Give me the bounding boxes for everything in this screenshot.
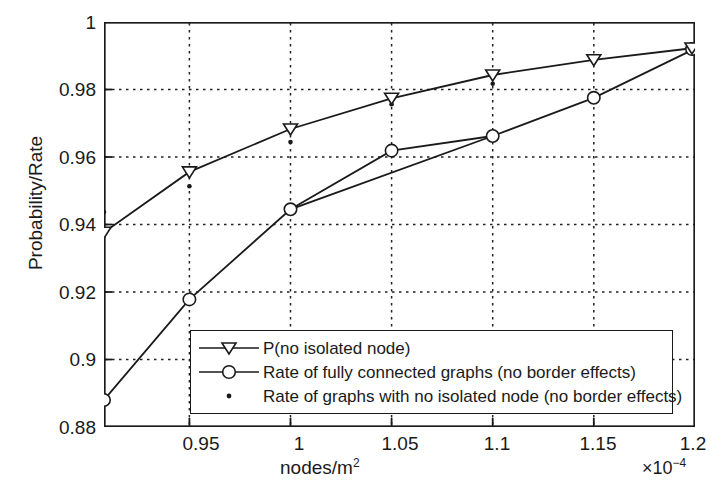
x-axis-exponent-superscript: −4: [673, 456, 687, 470]
chart-legend: P(no isolated node) Rate of fully connec…: [190, 330, 673, 414]
x-tick-label: 1.15: [553, 434, 643, 453]
x-tick-label: 0.95: [156, 434, 246, 453]
y-tick-label: 0.98: [16, 80, 96, 99]
x-axis-label-text: nodes/m: [280, 457, 353, 478]
x-axis-label-superscript: 2: [353, 456, 360, 470]
y-tick-label: 0.88: [16, 418, 96, 437]
y-tick-label: 0.96: [16, 148, 96, 167]
legend-label: Rate of fully connected graphs (no borde…: [263, 364, 636, 381]
circle-icon: [195, 360, 263, 384]
y-tick-labels: 1 0.98 0.96 0.94 0.92 0.9 0.88: [8, 0, 96, 497]
legend-item-p-no-isolated-node: P(no isolated node): [191, 336, 672, 360]
legend-item-no-isolated-node-dots: Rate of graphs with no isolated node (no…: [191, 384, 672, 408]
x-axis-exponent: ×10−4: [642, 456, 686, 479]
chart-figure: Probability/Rate 1 0.98 0.96 0.94 0.92 0…: [0, 0, 721, 497]
dot-icon: [195, 384, 263, 408]
legend-label: Rate of graphs with no isolated node (no…: [263, 388, 682, 405]
x-axis-exponent-base: ×10: [642, 458, 673, 478]
x-axis-label: nodes/m2: [280, 456, 360, 479]
y-tick-label: 0.9: [16, 350, 96, 369]
x-tick-label: 1.1: [452, 434, 542, 453]
x-tick-label: 1.2: [648, 434, 721, 453]
legend-item-fully-connected: Rate of fully connected graphs (no borde…: [191, 360, 672, 384]
legend-label: P(no isolated node): [263, 340, 410, 357]
y-tick-label: 1: [16, 13, 96, 32]
y-tick-label: 0.94: [16, 215, 96, 234]
x-tick-label: 1: [254, 434, 344, 453]
x-tick-label: 1.05: [355, 434, 445, 453]
triangle-down-icon: [195, 336, 263, 360]
y-tick-label: 0.92: [16, 283, 96, 302]
